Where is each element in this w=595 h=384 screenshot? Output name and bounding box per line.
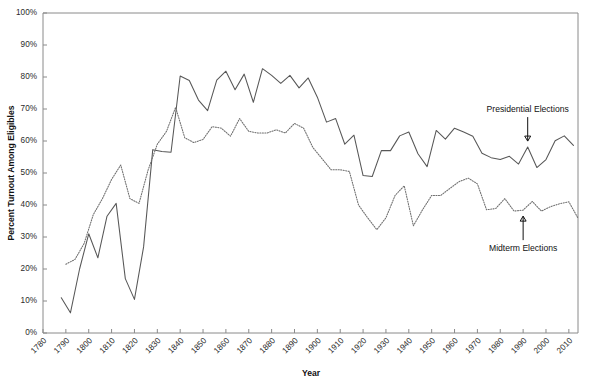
x-axis-tick-label: 1820 xyxy=(121,336,141,356)
x-axis-tick-label: 1910 xyxy=(326,336,346,356)
x-axis-tick-label: 1860 xyxy=(212,336,232,356)
turnout-chart: 0%10%20%30%40%50%60%70%80%90%100% 178017… xyxy=(0,0,595,384)
x-axis-tick-label: 1840 xyxy=(166,336,186,356)
x-axis-tick-label: 1890 xyxy=(281,336,301,356)
x-axis-tick-label: 1850 xyxy=(189,336,209,356)
y-axis-tick-label: 100% xyxy=(16,8,37,17)
x-axis-tick-label: 1810 xyxy=(98,336,118,356)
series-midterm-line xyxy=(66,107,578,264)
x-axis-tick-label: 1990 xyxy=(509,336,529,356)
midterm-elections-label: Midterm Elections xyxy=(489,243,557,253)
chart-canvas: 0%10%20%30%40%50%60%70%80%90%100% 178017… xyxy=(0,0,595,384)
y-axis-tick-label: 0% xyxy=(25,328,37,337)
y-axis-tick-label: 80% xyxy=(21,72,37,81)
x-axis-tick-label: 1980 xyxy=(486,336,506,356)
y-axis-tick-label: 60% xyxy=(21,136,37,145)
y-axis-tick-label: 10% xyxy=(21,296,37,305)
x-axis-title: Year xyxy=(302,368,321,378)
y-axis-ticks xyxy=(43,13,47,333)
x-axis-tick-label: 1800 xyxy=(75,336,95,356)
annotation-layer: Presidential ElectionsMidterm Elections xyxy=(487,104,569,253)
x-axis-tick-label: 1880 xyxy=(258,336,278,356)
x-axis-tick-label: 1870 xyxy=(235,336,255,356)
x-axis-tick-label: 1900 xyxy=(304,336,324,356)
y-axis-tick-label: 70% xyxy=(21,104,37,113)
x-axis-tick-labels: 1780179018001810182018301840185018601870… xyxy=(29,336,574,356)
y-axis-tick-label: 30% xyxy=(21,232,37,241)
x-axis-tick-label: 1930 xyxy=(372,336,392,356)
x-axis-tick-label: 1940 xyxy=(395,336,415,356)
y-axis-tick-label: 50% xyxy=(21,168,37,177)
y-axis-title: Percent Turnout Among Eligibles xyxy=(6,105,16,240)
x-axis-tick-label: 1780 xyxy=(29,336,49,356)
plot-frame xyxy=(43,13,578,333)
y-axis-tick-label: 40% xyxy=(21,200,37,209)
x-axis-tick-label: 1790 xyxy=(52,336,72,356)
x-axis-tick-label: 2000 xyxy=(532,336,552,356)
x-axis-tick-label: 2010 xyxy=(555,336,575,356)
y-axis-tick-label: 20% xyxy=(21,264,37,273)
x-axis-tick-label: 1950 xyxy=(418,336,438,356)
y-axis-tick-labels: 0%10%20%30%40%50%60%70%80%90%100% xyxy=(16,8,37,337)
x-axis-ticks xyxy=(43,329,569,333)
x-axis-tick-label: 1920 xyxy=(349,336,369,356)
x-axis-tick-label: 1960 xyxy=(441,336,461,356)
x-axis-tick-label: 1970 xyxy=(464,336,484,356)
presidential-elections-label: Presidential Elections xyxy=(487,104,569,114)
x-axis-tick-label: 1830 xyxy=(143,336,163,356)
y-axis-tick-label: 90% xyxy=(21,40,37,49)
